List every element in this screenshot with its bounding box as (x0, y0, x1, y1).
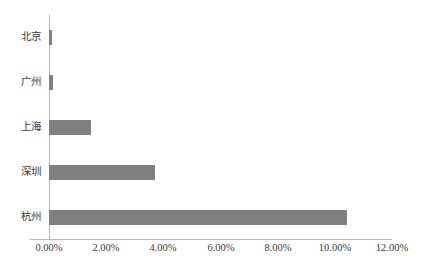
bar-chart: 北京 广州 上海 深圳 杭州 0.00% 2.00% 4.00% 6.00% 8… (0, 0, 423, 269)
x-tick-label-4: 8.00% (264, 243, 291, 254)
x-tick-label-2: 4.00% (149, 243, 176, 254)
x-axis-line (30, 239, 392, 240)
x-tick-label-1: 2.00% (92, 243, 119, 254)
x-tick-label-3: 6.00% (207, 243, 234, 254)
y-tick-label-1: 广州 (0, 77, 41, 88)
y-axis-labels: 北京 广州 上海 深圳 杭州 (0, 15, 45, 239)
x-tick-label-6: 12.00% (376, 243, 408, 254)
y-tick-label-0: 北京 (0, 32, 41, 43)
y-tick-label-4: 杭州 (0, 212, 41, 223)
bar-shenzhen[interactable] (49, 165, 155, 180)
bar-shanghai[interactable] (49, 120, 91, 135)
plot-area (49, 15, 392, 239)
bar-hangzhou[interactable] (49, 210, 347, 225)
y-tick-label-3: 深圳 (0, 167, 41, 178)
y-tick-label-2: 上海 (0, 122, 41, 133)
bar-guangzhou[interactable] (49, 75, 53, 90)
x-tick-label-0: 0.00% (35, 243, 62, 254)
bar-beijing[interactable] (49, 30, 52, 45)
x-tick-label-5: 10.00% (319, 243, 351, 254)
